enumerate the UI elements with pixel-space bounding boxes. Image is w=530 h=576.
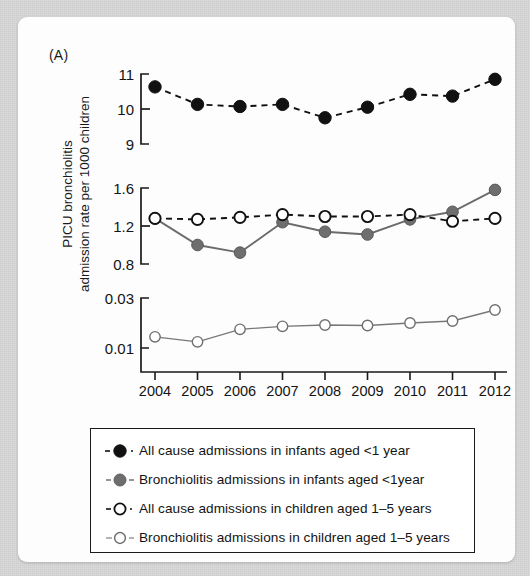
y-tick-label: 10	[117, 101, 134, 118]
data-point-marker	[277, 321, 287, 331]
x-tick-label: 2006	[224, 383, 256, 399]
data-point-marker	[489, 73, 501, 85]
data-point-marker	[191, 98, 203, 110]
open-black-circle-marker	[103, 501, 139, 517]
legend-item-all-cause-children: All cause admissions in children aged 1–…	[91, 494, 474, 523]
data-point-marker	[490, 305, 500, 315]
data-point-marker	[489, 213, 500, 224]
data-point-marker	[361, 101, 373, 113]
y-tick-label: 11	[118, 66, 134, 83]
legend-item-all-cause-infants: All cause admissions in infants aged <1 …	[91, 436, 474, 465]
data-point-marker	[405, 318, 415, 328]
legend-item-bronchiolitis-infants: Bronchiolitis admissions in infants aged…	[91, 465, 474, 494]
data-point-marker	[235, 324, 245, 334]
y-tick-label: 1.2	[113, 218, 134, 235]
figure-card: (A) PICU bronchiolitis admission rate pe…	[18, 17, 515, 562]
legend-item-bronchiolitis-children: Bronchiolitis admissions in children age…	[91, 523, 474, 552]
x-tick-label: 2008	[309, 383, 341, 399]
x-tick-label: 2004	[139, 383, 171, 399]
x-tick-label: 2010	[394, 383, 426, 399]
legend-item-label: Bronchiolitis admissions in children age…	[139, 530, 450, 545]
y-tick-label: 9	[126, 136, 134, 153]
data-point-marker	[192, 214, 203, 225]
data-point-marker	[362, 229, 374, 241]
data-point-marker	[447, 316, 457, 326]
legend-item-label: All cause admissions in infants aged <1 …	[139, 443, 410, 458]
y-tick-label: 1.6	[113, 180, 134, 197]
data-point-marker	[234, 212, 245, 223]
data-point-marker	[192, 239, 204, 251]
data-point-marker	[362, 320, 372, 330]
data-point-marker	[149, 81, 161, 93]
y-tick-label: 0.03	[105, 290, 134, 307]
x-tick-label: 2012	[479, 383, 511, 399]
data-point-marker	[489, 184, 501, 196]
data-point-marker	[150, 332, 160, 342]
x-tick-label: 2005	[181, 383, 213, 399]
x-tick-label: 2009	[351, 383, 383, 399]
data-point-marker	[404, 88, 416, 100]
x-tick-label: 2011	[437, 383, 468, 399]
data-point-marker	[320, 320, 330, 330]
x-tick-label: 2007	[266, 383, 298, 399]
data-point-marker	[277, 209, 288, 220]
data-point-marker	[319, 211, 330, 222]
data-point-marker	[446, 90, 458, 102]
filled-black-circle-marker	[103, 443, 139, 459]
data-point-marker	[234, 247, 246, 259]
legend-item-label: All cause admissions in children aged 1–…	[139, 501, 432, 516]
data-point-marker	[319, 226, 331, 238]
data-point-marker	[149, 213, 160, 224]
filled-gray-circle-marker	[103, 472, 139, 488]
open-gray-circle-marker	[103, 530, 139, 546]
legend-item-label: Bronchiolitis admissions in infants aged…	[139, 472, 424, 487]
data-point-marker	[234, 100, 246, 112]
data-point-marker	[447, 216, 458, 227]
y-tick-label: 0.8	[113, 256, 134, 273]
data-point-marker	[319, 112, 331, 124]
chart-legend: All cause admissions in infants aged <1 …	[90, 428, 475, 553]
y-tick-label: 0.01	[105, 340, 134, 357]
data-point-marker	[362, 211, 373, 222]
data-point-marker	[276, 98, 288, 110]
data-point-marker	[404, 209, 415, 220]
data-point-marker	[192, 337, 202, 347]
chart-plot-area: 910110.81.21.60.010.03200420052006200720…	[18, 17, 515, 417]
